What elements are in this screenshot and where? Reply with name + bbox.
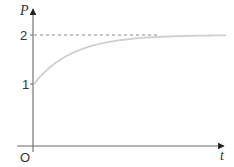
y-axis-label: P bbox=[20, 4, 29, 18]
chart-canvas bbox=[0, 0, 234, 167]
curve-series bbox=[34, 35, 226, 84]
y-tick-label-1: 1 bbox=[22, 78, 29, 91]
x-axis-label: t bbox=[220, 149, 224, 163]
origin-label: O bbox=[20, 151, 30, 164]
y-tick-label-2: 2 bbox=[20, 29, 27, 42]
